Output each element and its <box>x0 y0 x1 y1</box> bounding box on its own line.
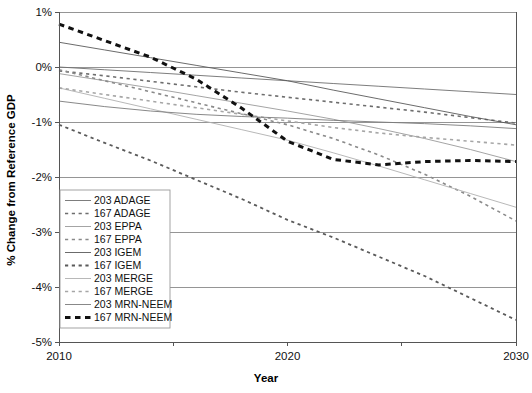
y-tick-label: 1% <box>35 6 52 18</box>
legend-label: 167 EPPA <box>94 233 142 245</box>
y-tick-label: 0% <box>35 61 52 73</box>
series-line-203-igem <box>59 42 516 125</box>
chart-container: 1%0%-1%-2%-3%-4%-5% 201020202030 203 ADA… <box>0 0 532 393</box>
legend-label: 203 EPPA <box>94 220 142 232</box>
x-axis-tick-labels: 201020202030 <box>46 350 529 362</box>
y-tick-label: -4% <box>32 281 52 293</box>
legend-label: 167 IGEM <box>94 259 141 271</box>
series-line-167-adage <box>59 71 516 123</box>
legend-label: 203 MRN-NEEM <box>94 298 172 310</box>
legend-label: 167 MRN-NEEM <box>94 311 172 323</box>
x-tick-label: 2010 <box>46 350 72 362</box>
series-line-167-merge <box>59 88 516 145</box>
y-axis-tick-labels: 1%0%-1%-2%-3%-4%-5% <box>32 6 52 348</box>
y-tick-label: -3% <box>32 226 52 238</box>
legend-label: 203 IGEM <box>94 246 141 258</box>
series-line-203-mrn-neem <box>59 101 516 129</box>
x-axis-title: Year <box>254 372 279 384</box>
series-line-203-merge <box>59 88 516 207</box>
y-axis-title: % Change from Reference GDP <box>5 94 17 266</box>
legend-label: 167 ADAGE <box>94 207 151 219</box>
y-tick-label: -1% <box>32 116 52 128</box>
y-tick-label: -5% <box>32 336 52 348</box>
legend-label: 203 ADAGE <box>94 194 151 206</box>
x-tick-label: 2020 <box>275 350 301 362</box>
x-tick-label: 2030 <box>503 350 529 362</box>
gdp-change-line-chart: 1%0%-1%-2%-3%-4%-5% 201020202030 203 ADA… <box>0 0 532 393</box>
legend-label: 203 MERGE <box>94 272 153 284</box>
y-tick-label: -2% <box>32 171 52 183</box>
legend-label: 167 MERGE <box>94 285 153 297</box>
chart-legend: 203 ADAGE167 ADAGE203 EPPA167 EPPA203 IG… <box>60 190 172 328</box>
